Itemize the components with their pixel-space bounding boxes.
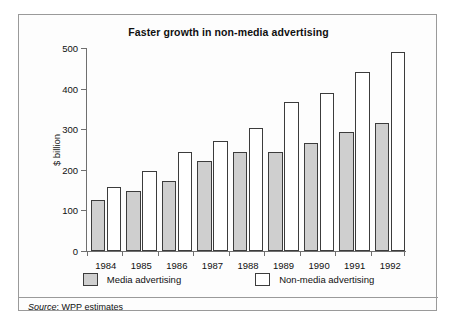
legend-label: Non-media advertising bbox=[279, 274, 374, 285]
y-axis-tick-label: 400 bbox=[62, 83, 78, 94]
y-axis-label: $ billion bbox=[51, 134, 62, 166]
y-axis-tick bbox=[81, 251, 86, 252]
bar-group: 1990 bbox=[304, 48, 335, 251]
y-axis-tick-label: 300 bbox=[62, 124, 78, 135]
y-axis-tick bbox=[81, 129, 86, 130]
x-axis-label: 1984 bbox=[95, 260, 116, 271]
plot-area: $ billion 0100200300400500 1984198519861… bbox=[86, 48, 406, 252]
y-axis-tick-label: 100 bbox=[62, 205, 78, 216]
x-axis-label: 1992 bbox=[380, 260, 401, 271]
x-axis-tick bbox=[229, 251, 230, 256]
source-divider bbox=[19, 297, 438, 298]
source-note: Source: WPP estimates bbox=[28, 302, 123, 312]
x-axis-tick bbox=[264, 251, 265, 256]
x-axis-tick bbox=[335, 251, 336, 256]
bar bbox=[126, 191, 141, 251]
bar-group: 1991 bbox=[339, 48, 370, 251]
x-axis-tick bbox=[87, 251, 88, 256]
x-axis-tick bbox=[371, 251, 372, 256]
x-axis-tick bbox=[300, 251, 301, 256]
bar bbox=[320, 93, 335, 251]
x-axis-tick bbox=[404, 251, 405, 256]
y-axis-tick bbox=[81, 48, 86, 49]
bar-group: 1989 bbox=[268, 48, 299, 251]
bar bbox=[233, 152, 248, 251]
x-axis-label: 1991 bbox=[344, 260, 365, 271]
bar bbox=[249, 128, 264, 251]
y-axis-tick bbox=[81, 89, 86, 90]
bar-group: 1987 bbox=[197, 48, 228, 251]
x-axis-label: 1989 bbox=[273, 260, 294, 271]
y-axis-tick bbox=[81, 210, 86, 211]
bar bbox=[142, 171, 157, 251]
bar-group: 1986 bbox=[162, 48, 193, 251]
chart-legend: Media advertisingNon-media advertising bbox=[19, 273, 438, 286]
y-axis-tick-label: 500 bbox=[62, 43, 78, 54]
bar-group: 1985 bbox=[126, 48, 157, 251]
legend-label: Media advertising bbox=[107, 274, 181, 285]
legend-swatch bbox=[255, 273, 270, 286]
chart-panel: Faster growth in non-media advertising $… bbox=[18, 14, 437, 311]
x-axis-label: 1990 bbox=[309, 260, 330, 271]
legend-item[interactable]: Media advertising bbox=[83, 273, 181, 286]
x-axis-tick bbox=[193, 251, 194, 256]
bar bbox=[355, 72, 370, 251]
chart-title: Faster growth in non-media advertising bbox=[19, 26, 438, 38]
bar bbox=[197, 161, 212, 251]
bar-group: 1984 bbox=[91, 48, 122, 251]
bar bbox=[91, 200, 106, 251]
x-axis-tick bbox=[122, 251, 123, 256]
y-axis-tick-label: 0 bbox=[73, 246, 78, 257]
bar bbox=[213, 141, 228, 251]
y-axis-tick bbox=[81, 170, 86, 171]
bar bbox=[268, 152, 283, 251]
y-axis-line bbox=[86, 48, 87, 252]
bar-group: 1988 bbox=[233, 48, 264, 251]
x-axis-label: 1985 bbox=[131, 260, 152, 271]
x-axis-label: 1988 bbox=[237, 260, 258, 271]
source-text: WPP estimates bbox=[62, 302, 123, 312]
bar bbox=[304, 143, 319, 251]
source-label: Source bbox=[28, 302, 57, 312]
x-axis-line bbox=[86, 251, 406, 252]
x-axis-label: 1987 bbox=[202, 260, 223, 271]
y-axis-tick-label: 200 bbox=[62, 164, 78, 175]
x-axis-tick bbox=[158, 251, 159, 256]
x-axis-label: 1986 bbox=[166, 260, 187, 271]
legend-item[interactable]: Non-media advertising bbox=[255, 273, 374, 286]
bar bbox=[391, 52, 406, 251]
bar bbox=[162, 181, 177, 251]
bar bbox=[284, 102, 299, 251]
bar bbox=[107, 187, 122, 251]
bar bbox=[375, 123, 390, 251]
bar bbox=[178, 152, 193, 251]
bar bbox=[339, 132, 354, 251]
legend-swatch bbox=[83, 273, 98, 286]
bar-group: 1992 bbox=[375, 48, 406, 251]
